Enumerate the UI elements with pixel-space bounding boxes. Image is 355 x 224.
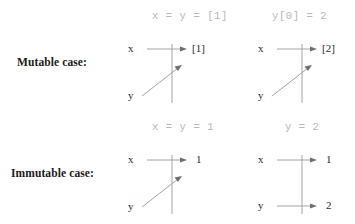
diagram-immutable-before: x y 1 — [128, 151, 238, 219]
value-label-top: [1] — [192, 43, 205, 54]
variable-label-x: x — [128, 154, 134, 165]
x-horizontal-arrow-head — [180, 46, 187, 51]
value-label-bottom: 2 — [326, 200, 332, 211]
diagram-mutable-after: x y [2] — [258, 40, 355, 108]
y-horizontal-arrow-head — [310, 203, 317, 208]
variable-label-x: x — [258, 154, 264, 165]
row-label-mutable: Mutable case: — [17, 56, 87, 68]
variable-label-y: y — [258, 90, 264, 101]
variable-label-y: y — [258, 200, 264, 211]
x-horizontal-arrow-head — [180, 157, 187, 162]
diagram-mutable-after-graphic — [258, 40, 355, 108]
diagram-mutable-before: x y [1] — [128, 40, 238, 108]
diagram-immutable-after: x y 1 2 — [258, 151, 355, 219]
diagram-immutable-after-graphic — [258, 151, 355, 219]
value-label-top: 1 — [196, 154, 202, 165]
column-header-immutable-before: x = y = 1 — [152, 121, 214, 133]
variable-label-y: y — [128, 90, 134, 101]
variable-label-y: y — [128, 201, 134, 212]
variable-label-x: x — [258, 43, 264, 54]
x-horizontal-arrow-head — [310, 46, 317, 51]
diagram-immutable-before-graphic — [128, 151, 238, 219]
column-header-mutable-before: x = y = [1] — [152, 10, 228, 22]
figure-canvas: Mutable case: x = y = [1] y[0] = 2 x y [… — [0, 0, 355, 224]
value-label-top: [2] — [322, 43, 335, 54]
row-label-immutable: Immutable case: — [11, 167, 94, 179]
variable-label-x: x — [128, 43, 134, 54]
value-label-top: 1 — [326, 154, 332, 165]
y-diagonal-arrow-shaft — [142, 179, 178, 207]
x-horizontal-arrow-head — [310, 157, 317, 162]
y-diagonal-arrow-shaft — [142, 68, 178, 96]
y-diagonal-arrow-shaft — [272, 68, 308, 96]
diagram-mutable-before-graphic — [128, 40, 238, 108]
column-header-immutable-after: y = 2 — [285, 121, 320, 133]
column-header-mutable-after: y[0] = 2 — [272, 10, 327, 22]
